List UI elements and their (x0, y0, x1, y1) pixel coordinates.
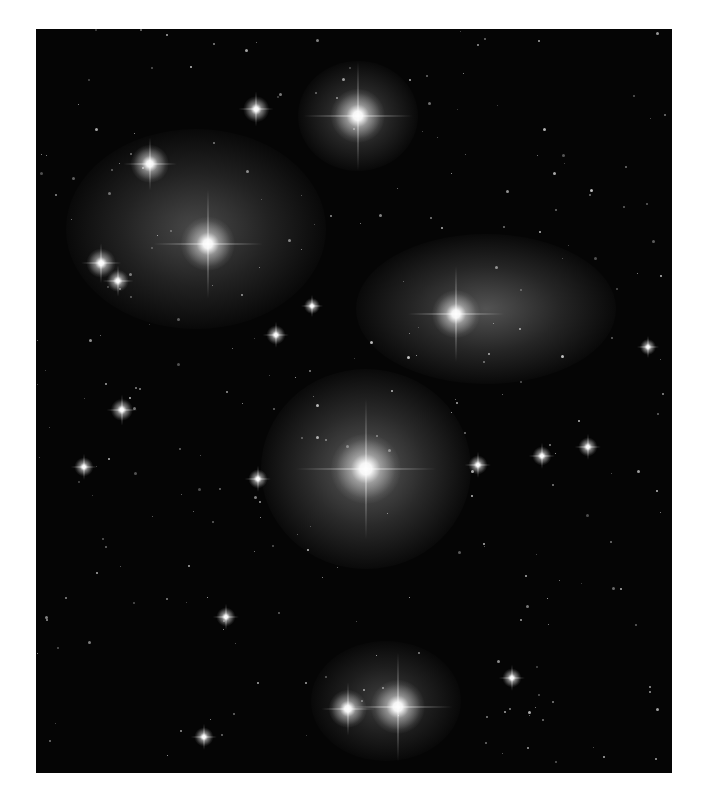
faint-star (441, 227, 443, 229)
faint-star (100, 335, 101, 336)
faint-star (561, 355, 564, 358)
faint-star (149, 324, 150, 325)
faint-star (46, 155, 47, 156)
faint-star (409, 333, 410, 334)
faint-star (403, 281, 404, 282)
faint-star (465, 154, 466, 155)
faint-star (102, 538, 104, 540)
faint-star (152, 516, 153, 517)
faint-star (656, 708, 659, 711)
faint-star (552, 701, 554, 703)
faint-star (616, 288, 618, 290)
faint-star (520, 289, 522, 291)
faint-star (88, 641, 91, 644)
faint-star (656, 490, 658, 492)
faint-star (49, 427, 50, 428)
faint-star (581, 583, 582, 584)
faint-star (586, 514, 589, 517)
faint-star (166, 34, 168, 36)
faint-star (625, 166, 627, 168)
faint-star (529, 715, 530, 716)
faint-star (246, 170, 249, 173)
faint-star (539, 231, 541, 233)
faint-star (562, 154, 565, 157)
faint-star (212, 521, 214, 523)
diffraction-spike-icon (84, 454, 85, 480)
faint-star (279, 93, 282, 96)
faint-star (84, 398, 85, 399)
faint-star (637, 470, 640, 473)
faint-star (409, 597, 410, 598)
faint-star (370, 341, 373, 344)
faint-star (535, 707, 536, 708)
faint-star (495, 266, 498, 269)
faint-star (316, 39, 319, 42)
faint-star (593, 747, 594, 748)
faint-star (520, 619, 522, 621)
faint-star (562, 258, 563, 259)
faint-star (391, 390, 393, 392)
faint-star (555, 453, 556, 454)
faint-star (277, 96, 279, 98)
faint-star (95, 128, 98, 131)
faint-star (177, 363, 180, 366)
faint-star (649, 691, 651, 693)
faint-star (207, 597, 208, 598)
faint-star (272, 545, 274, 547)
faint-star (528, 711, 531, 714)
faint-star (259, 501, 261, 503)
faint-star (493, 323, 494, 324)
faint-star (315, 92, 317, 94)
faint-star (549, 444, 551, 446)
faint-star (305, 682, 307, 684)
faint-star (45, 370, 46, 371)
faint-star (568, 245, 569, 246)
faint-star (463, 73, 464, 74)
faint-star (610, 541, 612, 543)
faint-star (188, 565, 190, 567)
faint-star (620, 588, 622, 590)
diffraction-spike-icon (276, 322, 277, 348)
faint-star (88, 79, 90, 81)
diffraction-spike-icon (478, 452, 479, 478)
faint-star (180, 730, 182, 732)
faint-star (200, 455, 201, 456)
faint-star (177, 318, 180, 321)
faint-star (547, 598, 548, 599)
faint-star (664, 114, 666, 116)
faint-star (226, 391, 228, 393)
faint-star (543, 128, 546, 131)
faint-star (129, 397, 131, 399)
faint-star (55, 723, 56, 724)
faint-star (460, 31, 461, 32)
faint-star (422, 131, 423, 132)
faint-star (325, 439, 327, 441)
faint-star (538, 694, 540, 696)
faint-star (526, 605, 529, 608)
faint-star (78, 481, 80, 483)
faint-star (649, 686, 651, 688)
diffraction-spike-icon (542, 443, 543, 469)
faint-star (212, 285, 213, 286)
faint-star (354, 358, 355, 359)
faint-star (219, 488, 221, 490)
faint-star (430, 217, 432, 219)
diffraction-spike-icon (512, 665, 513, 691)
faint-star (223, 629, 224, 630)
faint-star (119, 163, 120, 164)
faint-star (485, 742, 487, 744)
faint-star (637, 273, 638, 274)
faint-star (316, 404, 319, 407)
faint-star (477, 44, 479, 46)
diffraction-spike-icon (348, 683, 349, 736)
faint-star (37, 340, 38, 341)
faint-star (536, 666, 538, 668)
faint-star (407, 356, 410, 359)
faint-star (451, 173, 452, 174)
faint-star (662, 393, 664, 395)
faint-star (92, 495, 93, 496)
faint-star (594, 257, 597, 260)
faint-star (437, 137, 438, 138)
faint-star (387, 513, 388, 514)
faint-star (486, 716, 488, 718)
